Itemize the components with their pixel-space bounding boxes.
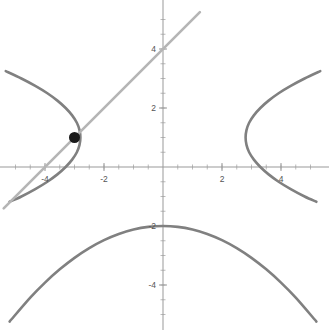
y-tick-label: -4: [148, 280, 156, 290]
x-tick-label: -4: [41, 174, 49, 184]
data-points-layer: [69, 132, 80, 143]
y-tick-label: -2: [148, 221, 156, 231]
intersection-point: [69, 132, 80, 143]
plot-canvas: -4-22442-2-4: [0, 0, 329, 330]
y-tick-label: 4: [151, 44, 156, 54]
x-tick-label: -2: [100, 174, 108, 184]
x-tick-label: 4: [279, 174, 284, 184]
x-tick-label: 2: [220, 174, 225, 184]
plot-figure: -4-22442-2-4: [0, 0, 329, 330]
y-tick-label: 2: [151, 103, 156, 113]
